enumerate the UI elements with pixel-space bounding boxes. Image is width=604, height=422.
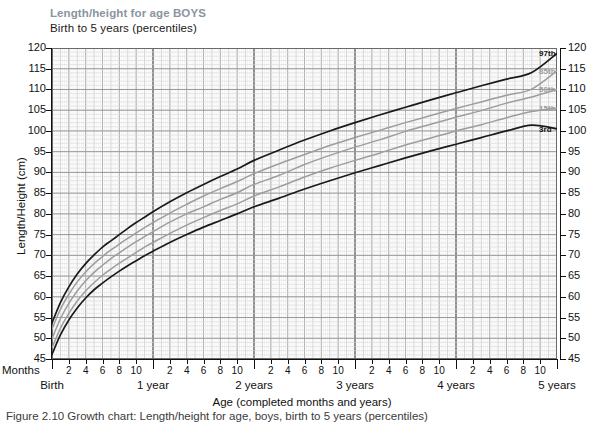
x-year-tick-mark [456, 360, 457, 369]
x-tick-mark [237, 360, 238, 364]
x-tick-mark [389, 360, 390, 364]
x-year-label: 3 years [320, 379, 390, 391]
percentile-label-50th: 50th [539, 85, 556, 94]
x-year-label: Birth [17, 379, 87, 391]
y-tick-label-105: 105 [568, 104, 602, 115]
x-tick-mark [136, 360, 137, 364]
x-tick-mark [507, 360, 508, 364]
y-tick-mark [46, 276, 51, 277]
y-tick-label-90: 90 [12, 166, 46, 177]
y-tick-mark [46, 318, 51, 319]
x-tick-mark [187, 360, 188, 364]
x-year-tick-mark [355, 360, 356, 369]
x-tick-mark [490, 360, 491, 364]
y-tick-label-45: 45 [12, 353, 46, 364]
months-axis-label: Months [2, 364, 40, 376]
y-tick-label-50: 50 [568, 332, 602, 343]
y-tick-mark [46, 152, 51, 153]
x-year-tick-mark [153, 360, 154, 369]
y-tick-mark [561, 338, 566, 339]
y-tick-mark [561, 193, 566, 194]
x-tick-mark [103, 360, 104, 364]
x-tick-mark [338, 360, 339, 364]
x-tick-mark [204, 360, 205, 364]
chart-title: Length/height for age BOYS [50, 7, 206, 19]
y-tick-label-85: 85 [12, 187, 46, 198]
y-tick-mark [561, 69, 566, 70]
x-year-tick-mark [52, 360, 53, 369]
y-tick-mark [46, 297, 51, 298]
y-tick-mark [46, 235, 51, 236]
x-tick-mark [86, 360, 87, 364]
y-tick-label-75: 75 [12, 229, 46, 240]
y-tick-mark [561, 214, 566, 215]
y-tick-mark [46, 89, 51, 90]
percentile-label-97th: 97th [539, 49, 556, 58]
y-tick-mark [46, 255, 51, 256]
y-tick-mark [561, 152, 566, 153]
y-tick-mark [561, 131, 566, 132]
y-tick-label-95: 95 [568, 146, 602, 157]
y-tick-label-80: 80 [568, 208, 602, 219]
x-tick-mark [523, 360, 524, 364]
x-year-label: 2 years [219, 379, 289, 391]
y-tick-label-120: 120 [568, 42, 602, 53]
y-tick-mark [46, 338, 51, 339]
x-year-label: 5 years [522, 379, 592, 391]
y-axis-title: Length/Height (cm) [15, 116, 27, 296]
y-tick-mark [46, 172, 51, 173]
x-axis-title: Age (completed months and years) [0, 396, 604, 408]
y-tick-mark [46, 131, 51, 132]
percentile-curves [52, 48, 557, 359]
y-tick-label-60: 60 [568, 291, 602, 302]
y-tick-mark [46, 359, 51, 360]
y-tick-label-55: 55 [12, 312, 46, 323]
y-tick-label-120: 120 [12, 42, 46, 53]
x-tick-mark [305, 360, 306, 364]
x-year-tick-mark [254, 360, 255, 369]
x-tick-mark [69, 360, 70, 364]
y-tick-label-75: 75 [568, 229, 602, 240]
y-tick-label-70: 70 [12, 249, 46, 260]
y-tick-mark [46, 193, 51, 194]
y-tick-label-70: 70 [568, 249, 602, 260]
y-tick-mark [561, 89, 566, 90]
y-tick-mark [561, 276, 566, 277]
plot-area [52, 48, 557, 359]
x-tick-mark [271, 360, 272, 364]
x-tick-mark [119, 360, 120, 364]
y-tick-label-100: 100 [12, 125, 46, 136]
x-year-tick-mark [557, 360, 558, 369]
x-year-label: 4 years [421, 379, 491, 391]
y-tick-mark [561, 297, 566, 298]
y-tick-mark [561, 359, 566, 360]
x-tick-label: 10 [428, 365, 450, 376]
y-tick-label-55: 55 [568, 312, 602, 323]
y-tick-label-65: 65 [12, 270, 46, 281]
y-tick-label-110: 110 [568, 83, 602, 94]
x-tick-mark [540, 360, 541, 364]
x-tick-label: 10 [327, 365, 349, 376]
y-tick-label-100: 100 [568, 125, 602, 136]
chart-subtitle: Birth to 5 years (percentiles) [50, 22, 197, 34]
y-tick-mark [46, 110, 51, 111]
y-tick-label-95: 95 [12, 146, 46, 157]
x-tick-mark [220, 360, 221, 364]
y-tick-mark [46, 214, 51, 215]
y-tick-label-80: 80 [12, 208, 46, 219]
y-tick-mark [46, 69, 51, 70]
y-tick-label-115: 115 [12, 63, 46, 74]
y-tick-mark [561, 110, 566, 111]
percentile-label-85th: 85th [539, 67, 556, 76]
y-tick-label-65: 65 [568, 270, 602, 281]
x-tick-mark [170, 360, 171, 364]
percentile-label-15th: 15th [539, 104, 556, 113]
y-tick-mark [561, 255, 566, 256]
y-tick-mark [561, 235, 566, 236]
x-tick-label: 10 [125, 365, 147, 376]
x-tick-label: 10 [226, 365, 248, 376]
x-tick-mark [372, 360, 373, 364]
y-tick-mark [561, 48, 566, 49]
figure-caption: Figure 2.10 Growth chart: Length/height … [6, 410, 596, 422]
